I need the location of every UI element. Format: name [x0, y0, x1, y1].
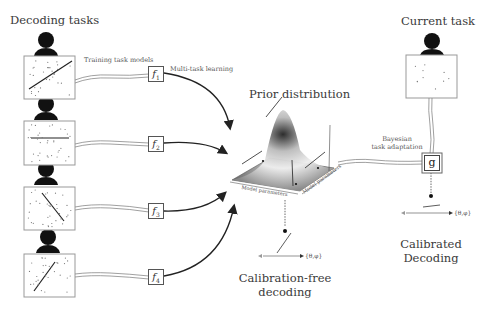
scatter-dot: [31, 124, 32, 125]
scatter-dot: [66, 216, 67, 217]
person-icon-4: [36, 229, 60, 253]
scatter-dot: [42, 137, 43, 138]
task-box-3: [24, 187, 75, 230]
scatter-dot: [448, 78, 449, 79]
scatter-dot: [36, 276, 37, 277]
current-task-title: Current task: [401, 14, 475, 28]
scatter-dot: [35, 125, 36, 126]
calibration-free-caption: Calibration-free decoding: [238, 271, 332, 300]
scatter-dot: [36, 201, 37, 202]
bayesian-adaptation-label: Bayesian task adaptation: [369, 135, 425, 151]
scatter-dot: [33, 154, 34, 155]
scatter-dot: [47, 142, 48, 143]
scatter-dot: [62, 223, 63, 224]
person-icon-current: [420, 33, 444, 55]
calib-free-line2: decoding: [238, 285, 332, 299]
arrow-f1-to-prior: [164, 73, 230, 128]
scatter-dot: [66, 292, 67, 293]
scatter-dot: [43, 265, 44, 266]
calib-free-line1: Calibration-free: [238, 271, 332, 285]
scatter-dot: [33, 283, 34, 284]
calibrated-output: [401, 170, 453, 215]
scatter-dot: [30, 74, 31, 75]
task-box-current: [406, 55, 457, 98]
scatter-dot: [417, 81, 418, 82]
scatter-dot: [422, 70, 423, 71]
scatter-dot: [33, 223, 34, 224]
scatter-dot: [49, 266, 50, 267]
scatter-dot: [47, 217, 48, 218]
person-icon-1: [34, 32, 58, 56]
scatter-dot: [47, 67, 48, 68]
scatter-dot: [57, 208, 58, 209]
f1-index: 1: [156, 74, 160, 81]
scatter-dot: [47, 192, 48, 193]
scatter-dot: [31, 93, 32, 94]
scatter-dot: [42, 257, 43, 258]
scatter-dot: [59, 150, 60, 151]
adaptation-model-g: g: [424, 155, 440, 171]
scatter-dot: [50, 206, 51, 207]
scatter-dot: [53, 141, 54, 142]
scatter-dot: [29, 129, 30, 130]
scatter-dot: [57, 82, 58, 83]
scatter-dot: [59, 213, 60, 214]
scatter-dot: [66, 205, 67, 206]
scatter-dot: [51, 226, 52, 227]
scatter-dot: [48, 157, 49, 158]
scatter-dot: [57, 156, 58, 157]
scatter-dot: [56, 61, 57, 62]
calib-free-output: [258, 200, 304, 258]
scatter-dot: [49, 215, 50, 216]
scatter-dot: [443, 81, 444, 82]
scatter-dot: [60, 218, 61, 219]
scatter-dot: [30, 137, 31, 138]
arrow-f2-to-prior: [164, 142, 226, 153]
scatter-dot: [45, 258, 46, 259]
scatter-dot: [52, 71, 53, 72]
scatter-dot: [35, 95, 36, 96]
scatter-dot: [51, 155, 52, 156]
scatter-dot: [415, 66, 416, 67]
connector-2: [75, 141, 149, 147]
scatter-dot: [35, 189, 36, 190]
task-model-f4: f4: [148, 269, 164, 285]
scatter-dot: [33, 67, 34, 68]
scatter-dot: [31, 161, 32, 162]
scatter-dot: [424, 64, 425, 65]
scatter-dot: [35, 60, 36, 61]
scatter-dot: [45, 275, 46, 276]
scatter-dot: [30, 284, 31, 285]
decoding-tasks-title: Decoding tasks: [10, 13, 99, 27]
scatter-dot: [36, 281, 37, 282]
scatter-dot: [65, 160, 66, 161]
scatter-dot: [43, 71, 44, 72]
scatter-dot: [31, 91, 32, 92]
scatter-dot: [54, 271, 55, 272]
scatter-dot: [38, 135, 39, 136]
scatter-dot: [31, 262, 32, 263]
scatter-dot: [67, 277, 68, 278]
scatter-dot: [47, 77, 48, 78]
scatter-dot: [29, 271, 30, 272]
scatter-dot: [39, 160, 40, 161]
scatter-dot: [49, 67, 50, 68]
scatter-dot: [55, 193, 56, 194]
task-box-2: [24, 121, 75, 165]
scatter-dot: [435, 88, 436, 89]
scatter-dot: [42, 224, 43, 225]
scatter-dot: [61, 83, 62, 84]
connector-1: [75, 74, 149, 83]
scatter-dot: [60, 148, 61, 149]
scatter-dot: [60, 275, 61, 276]
arrow-f3-to-prior: [164, 193, 225, 211]
scatter-dot: [34, 87, 35, 88]
scatter-dot: [44, 291, 45, 292]
scatter-dot: [51, 267, 52, 268]
calibrated-decoding-caption: Calibrated Decoding: [395, 237, 467, 266]
scatter-dot: [70, 210, 71, 211]
scatter-dot: [43, 272, 44, 273]
scatter-dot: [62, 195, 63, 196]
scatter-dot: [40, 87, 41, 88]
calibrated-param-set: {θ,φ}: [454, 209, 471, 216]
